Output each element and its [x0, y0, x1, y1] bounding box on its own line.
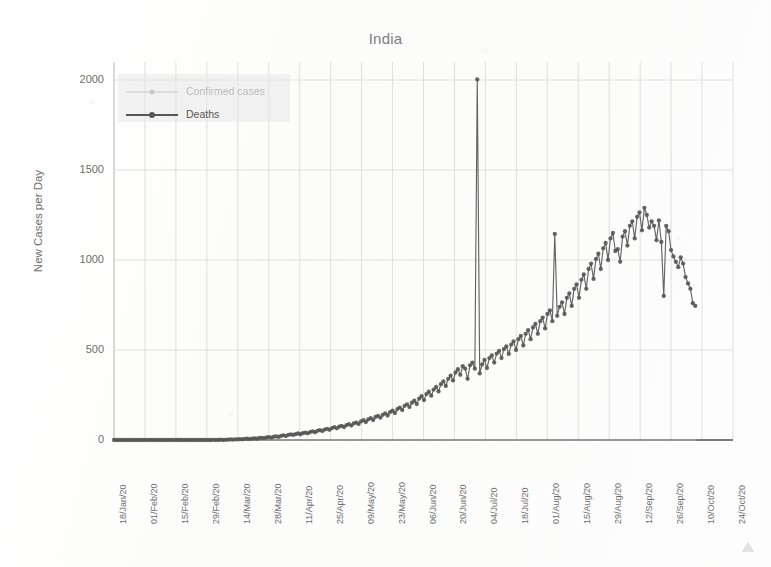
legend-item-label: Deaths — [186, 108, 219, 120]
x-tick-label: 14/Mar/20 — [242, 483, 252, 524]
y-tick-label: 0 — [52, 433, 104, 445]
x-tick-label: 29/Feb/20 — [211, 483, 221, 524]
x-tick-label: 29/Aug/20 — [613, 483, 623, 524]
y-axis-title: New Cases per Day — [32, 131, 44, 311]
x-tick-label: 04/Jul/20 — [489, 487, 499, 524]
x-tick-label: 23/May/20 — [397, 482, 407, 524]
x-tick-label: 20/Jun/20 — [458, 484, 468, 524]
x-tick-label: 11/Apr/20 — [304, 486, 314, 524]
x-tick-label: 10/Oct/20 — [706, 485, 716, 524]
chart-figure: India New Cases per Day 0500100015002000… — [0, 0, 771, 567]
x-tick-label: 01/Feb/20 — [149, 483, 159, 524]
x-tick-label: 28/Mar/20 — [273, 483, 283, 524]
x-tick-label: 18/Jan/20 — [118, 484, 128, 524]
y-tick-label: 1500 — [52, 163, 104, 175]
x-tick-label: 06/Jun/20 — [428, 484, 438, 524]
scan-artifact-icon — [739, 539, 757, 553]
x-tick-label: 01/Aug/20 — [551, 483, 561, 524]
chart-canvas — [0, 0, 771, 567]
x-tick-label: 24/Oct/20 — [737, 485, 747, 524]
x-tick-label: 15/Feb/20 — [180, 483, 190, 524]
x-tick-label: 26/Sep/20 — [675, 483, 685, 524]
x-tick-label: 25/Apr/20 — [335, 485, 345, 524]
chart-title: India — [0, 30, 771, 47]
legend-item-label: Confirmed cases — [186, 85, 265, 97]
legend-swatch-icon — [124, 84, 180, 100]
y-tick-label: 1000 — [52, 253, 104, 265]
x-tick-label: 09/May/20 — [366, 482, 376, 524]
x-tick-label: 12/Sep/20 — [644, 483, 654, 524]
y-tick-label: 500 — [52, 343, 104, 355]
x-tick-label: 18/Jul/20 — [520, 487, 530, 524]
x-tick-label: 15/Aug/20 — [582, 483, 592, 524]
y-tick-label: 2000 — [52, 73, 104, 85]
legend-swatch-icon — [124, 107, 180, 123]
